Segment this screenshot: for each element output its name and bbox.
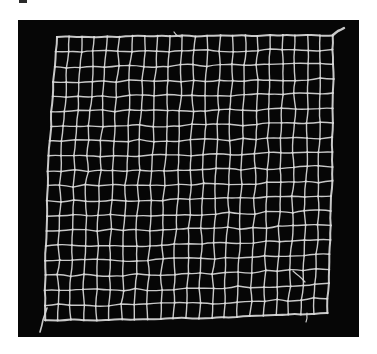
net-knot: [128, 64, 130, 66]
net-knot: [328, 269, 330, 271]
net-knot: [149, 245, 151, 247]
net-knot: [319, 121, 321, 123]
net-knot: [86, 155, 88, 157]
net-knot: [176, 228, 178, 230]
net-knot: [45, 274, 47, 276]
net-knot: [313, 313, 315, 315]
net-knot: [173, 257, 175, 259]
net-knot: [330, 224, 332, 226]
net-knot: [229, 108, 231, 110]
net-knot: [319, 138, 321, 140]
net-knot: [198, 287, 200, 289]
net-knot: [293, 92, 295, 94]
net-knot: [257, 50, 259, 52]
net-knot: [215, 167, 217, 169]
net-knot: [120, 303, 122, 305]
net-knot: [201, 168, 203, 170]
net-knot: [136, 273, 138, 275]
net-knot: [167, 66, 169, 68]
net-knot: [279, 168, 281, 170]
net-knot: [293, 122, 295, 124]
net-knot: [319, 108, 321, 110]
net-knot: [225, 242, 227, 244]
net-knot: [128, 79, 130, 81]
net-knot: [292, 137, 294, 139]
net-knot: [77, 109, 79, 111]
net-knot: [178, 140, 180, 142]
net-knot: [133, 304, 135, 306]
net-knot: [124, 215, 126, 217]
net-knot: [213, 227, 215, 229]
net-knot: [282, 93, 284, 95]
net-knot: [319, 93, 321, 95]
net-knot: [243, 94, 245, 96]
net-knot: [166, 140, 168, 142]
cropped-label-fragment: [19, 0, 27, 3]
net-knot: [243, 80, 245, 82]
net-knot: [138, 138, 140, 140]
net-knot: [241, 183, 243, 185]
net-knot: [44, 305, 46, 307]
net-knot: [331, 107, 333, 109]
net-knot: [218, 50, 220, 52]
net-knot: [306, 165, 308, 167]
net-knot: [224, 271, 226, 273]
net-knot: [156, 50, 158, 52]
net-knot: [141, 94, 143, 96]
net-knot: [155, 66, 157, 68]
net-knot: [289, 269, 291, 271]
net-knot: [72, 214, 74, 216]
net-knot: [269, 48, 271, 50]
net-knot: [89, 109, 91, 111]
net-knot: [162, 229, 164, 231]
net-knot: [60, 155, 62, 157]
net-knot: [68, 36, 70, 38]
net-knot: [99, 156, 101, 158]
net-knot: [266, 137, 268, 139]
net-knot: [326, 298, 328, 300]
net-knot: [254, 213, 256, 215]
net-knot: [81, 36, 83, 38]
net-knot: [228, 167, 230, 169]
net-knot: [199, 272, 201, 274]
net-knot: [303, 239, 305, 241]
net-knot: [263, 286, 265, 288]
net-knot: [185, 317, 187, 319]
net-knot: [262, 315, 264, 317]
net-knot: [255, 183, 257, 185]
net-knot: [180, 81, 182, 83]
net-knot: [58, 215, 60, 217]
net-knot: [278, 255, 280, 257]
net-knot: [289, 255, 291, 257]
net-knot: [135, 229, 137, 231]
net-knot: [65, 67, 67, 69]
net-knot: [73, 155, 75, 157]
net-knot: [307, 49, 309, 51]
net-knot: [129, 94, 131, 96]
net-knot: [315, 268, 317, 270]
net-knot: [59, 259, 61, 261]
net-knot: [328, 253, 330, 255]
net-knot: [191, 94, 193, 96]
net-knot: [237, 285, 239, 287]
net-knot: [178, 125, 180, 127]
net-knot: [237, 271, 239, 273]
net-knot: [78, 82, 80, 84]
net-knot: [118, 36, 120, 38]
net-knot: [253, 197, 255, 199]
net-knot: [153, 80, 155, 82]
net-knot: [333, 78, 335, 80]
net-knot: [201, 243, 203, 245]
net-knot: [251, 300, 253, 302]
net-knot: [108, 275, 110, 277]
net-knot: [211, 317, 213, 319]
net-knot: [52, 81, 54, 83]
net-knot: [280, 181, 282, 183]
net-knot: [136, 245, 138, 247]
net-knot: [47, 155, 49, 157]
net-knot: [87, 171, 89, 173]
net-knot: [177, 183, 179, 185]
net-knot: [236, 301, 238, 303]
net-knot: [136, 260, 138, 262]
net-knot: [178, 154, 180, 156]
